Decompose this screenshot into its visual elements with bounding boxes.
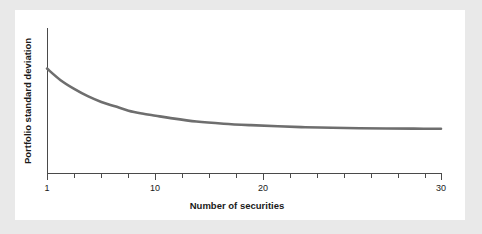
portfolio-risk-curve [47, 69, 441, 129]
diversification-chart: 1 10 20 30 Number of securities Portfoli… [15, 10, 465, 220]
x-axis-ticks [47, 173, 441, 180]
x-tick-label-10: 10 [150, 183, 160, 193]
y-axis-title: Portfolio standard deviation [22, 38, 33, 164]
x-axis-title: Number of securities [190, 200, 285, 211]
x-tick-label-30: 30 [436, 183, 446, 193]
figure-root: 1 10 20 30 Number of securities Portfoli… [0, 0, 482, 234]
chart-card: 1 10 20 30 Number of securities Portfoli… [15, 10, 465, 220]
x-tick-label-1: 1 [44, 183, 49, 193]
x-tick-label-20: 20 [258, 183, 268, 193]
